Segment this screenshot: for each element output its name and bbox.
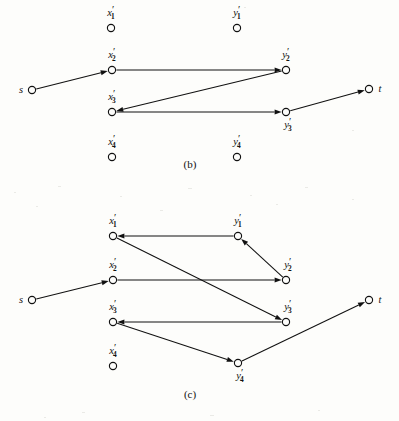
node-label-c-t: t bbox=[379, 294, 383, 305]
figure-canvas: x′1y′1x′2y′2x′3y′3x′4y′4stx′1y′1x′2y′2x′… bbox=[0, 0, 399, 421]
graph-node-c-s[interactable] bbox=[28, 296, 35, 303]
graph-node-b-t[interactable] bbox=[365, 85, 372, 92]
labels-layer: x′1y′1x′2y′2x′3y′3x′4y′4stx′1y′1x′2y′2x′… bbox=[19, 4, 383, 384]
node-label-c-x3: x′3 bbox=[108, 298, 117, 315]
graph-edge bbox=[36, 280, 108, 299]
node-label-b-x4: x′4 bbox=[107, 133, 116, 150]
node-label-c-y2: y′2 bbox=[283, 256, 292, 273]
graph-edge bbox=[242, 302, 365, 361]
node-label-c-x4: x′4 bbox=[108, 342, 117, 359]
nodes-layer bbox=[28, 24, 372, 369]
graph-node-c-y3[interactable] bbox=[282, 318, 289, 325]
graph-edge bbox=[36, 70, 107, 89]
graph-node-c-y2[interactable] bbox=[282, 276, 289, 283]
graph-edge bbox=[116, 71, 281, 112]
graph-edge bbox=[117, 320, 281, 325]
graph-node-b-s[interactable] bbox=[28, 86, 35, 93]
node-label-b-y4: y′4 bbox=[232, 133, 241, 150]
graph-edge bbox=[116, 110, 281, 115]
graph-edge bbox=[290, 90, 365, 111]
node-label-c-y3: y′3 bbox=[283, 298, 292, 315]
graph-edge bbox=[117, 323, 234, 361]
node-label-c-y1: y′1 bbox=[233, 212, 242, 229]
graph-node-b-x1[interactable] bbox=[107, 24, 114, 31]
graph-node-b-x4[interactable] bbox=[108, 153, 115, 160]
graph-node-b-y3[interactable] bbox=[282, 108, 289, 115]
graph-edge bbox=[117, 238, 282, 320]
graph-node-c-y4[interactable] bbox=[234, 359, 241, 366]
edges-layer bbox=[36, 68, 365, 362]
node-label-c-s: s bbox=[19, 294, 23, 305]
graph-node-b-y1[interactable] bbox=[233, 24, 240, 31]
node-label-c-x1: x′1 bbox=[108, 212, 117, 229]
node-label-b-t: t bbox=[379, 83, 383, 94]
graph-node-c-x3[interactable] bbox=[109, 318, 116, 325]
graph-edge bbox=[117, 278, 281, 283]
node-label-b-y1: y′1 bbox=[232, 4, 241, 21]
graph-node-b-y4[interactable] bbox=[233, 153, 240, 160]
node-label-b-x1: x′1 bbox=[106, 4, 115, 21]
graph-node-b-x2[interactable] bbox=[108, 66, 115, 73]
graph-node-b-y2[interactable] bbox=[282, 66, 289, 73]
graph-edge bbox=[241, 239, 283, 277]
node-label-b-x3: x′3 bbox=[107, 88, 116, 105]
panel-caption-b: (b) bbox=[184, 158, 197, 171]
node-label-c-x2: x′2 bbox=[108, 256, 117, 273]
graph-node-c-x4[interactable] bbox=[109, 362, 116, 369]
node-label-b-x2: x′2 bbox=[107, 46, 116, 63]
node-label-b-y3: y′3 bbox=[283, 116, 292, 133]
graph-node-c-t[interactable] bbox=[365, 296, 372, 303]
graph-node-c-x1[interactable] bbox=[109, 232, 116, 239]
node-label-b-y2: y′2 bbox=[281, 46, 290, 63]
graph-node-b-x3[interactable] bbox=[108, 108, 115, 115]
node-label-c-y4: y′4 bbox=[235, 367, 244, 384]
panel-caption-c: (c) bbox=[184, 388, 197, 401]
graph-edge bbox=[116, 68, 281, 73]
graph-node-c-y1[interactable] bbox=[234, 232, 241, 239]
node-label-b-s: s bbox=[19, 84, 23, 95]
graph-node-c-x2[interactable] bbox=[109, 276, 116, 283]
figure-root: x′1y′1x′2y′2x′3y′3x′4y′4stx′1y′1x′2y′2x′… bbox=[0, 0, 399, 421]
graph-edge bbox=[117, 234, 233, 239]
